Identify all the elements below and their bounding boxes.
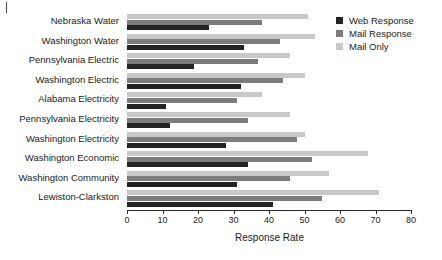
category-label: Pennsylvania Electric [0,55,119,65]
bar-segment [127,123,170,128]
bar-segment [127,34,315,39]
x-tick-label: 70 [370,215,380,225]
category-label: Lewiston-Clarkston [0,192,119,202]
bar-segment [127,39,280,44]
chart-legend: Web ResponseMail ResponseMail Only [336,14,440,53]
bar-segment [127,84,241,89]
bar-segment [127,182,237,187]
bar-segment [127,14,308,19]
bar-segment [127,20,262,25]
grouped-bar-chart: Nebraska WaterWashington WaterPennsylvan… [0,0,442,260]
chart-row: Washington Community [0,171,442,187]
bar-segment [127,59,258,64]
bar-segment [127,118,248,123]
legend-item: Web Response [336,14,440,27]
x-tick-mark [198,210,199,214]
bar-segment [127,53,290,58]
x-tick-mark [376,210,377,214]
x-tick-label: 0 [124,215,129,225]
bar-segment [127,104,166,109]
x-tick-mark [269,210,270,214]
bar-segment [127,190,379,195]
category-label: Washington Economic [0,153,119,163]
square-swatch-icon [336,17,343,24]
bar-segment [127,176,290,181]
square-swatch-icon [336,30,343,37]
category-label: Nebraska Water [0,16,119,26]
chart-row: Alabama Electricity [0,92,442,108]
x-tick-mark [340,210,341,214]
chart-row: Pennsylvania Electricity [0,112,442,128]
bar-segment [127,151,368,156]
x-tick-mark [127,210,128,214]
x-tick-label: 50 [299,215,309,225]
category-label: Pennsylvania Electricity [0,114,119,124]
x-tick-label: 20 [193,215,203,225]
x-tick-label: 10 [157,215,167,225]
legend-item: Mail Only [336,40,440,53]
chart-row: Washington Economic [0,151,442,167]
bar-segment [127,157,312,162]
bar-segment [127,112,290,117]
bar-segment [127,73,305,78]
category-label: Washington Water [0,36,119,46]
x-tick-label: 40 [264,215,274,225]
legend-label: Mail Response [349,28,412,39]
category-label: Washington Electric [0,75,119,85]
chart-row: Washington Electricity [0,132,442,148]
bar-segment [127,25,209,30]
chart-row: Washington Electric [0,73,442,89]
x-tick-label: 60 [335,215,345,225]
legend-item: Mail Response [336,27,440,40]
x-tick-mark [411,210,412,214]
bar-segment [127,137,297,142]
x-tick-mark [234,210,235,214]
bar-segment [127,202,273,207]
bar-segment [127,171,329,176]
category-label: Washington Community [0,173,119,183]
legend-label: Web Response [349,15,414,26]
category-label: Alabama Electricity [0,94,119,104]
square-swatch-icon [336,43,343,50]
x-tick-label: 30 [228,215,238,225]
bar-segment [127,196,322,201]
x-tick-label: 80 [406,215,416,225]
legend-label: Mail Only [349,41,389,52]
chart-row: Lewiston-Clarkston [0,190,442,206]
x-axis-title: Response Rate [127,232,412,243]
x-tick-mark [305,210,306,214]
category-label: Washington Electricity [0,134,119,144]
bar-segment [127,98,237,103]
bar-segment [127,78,283,83]
bar-segment [127,143,226,148]
bar-segment [127,162,248,167]
bar-segment [127,45,244,50]
bar-segment [127,64,194,69]
chart-row: Pennsylvania Electric [0,53,442,69]
bar-segment [127,92,262,97]
bar-segment [127,132,305,137]
x-tick-mark [163,210,164,214]
